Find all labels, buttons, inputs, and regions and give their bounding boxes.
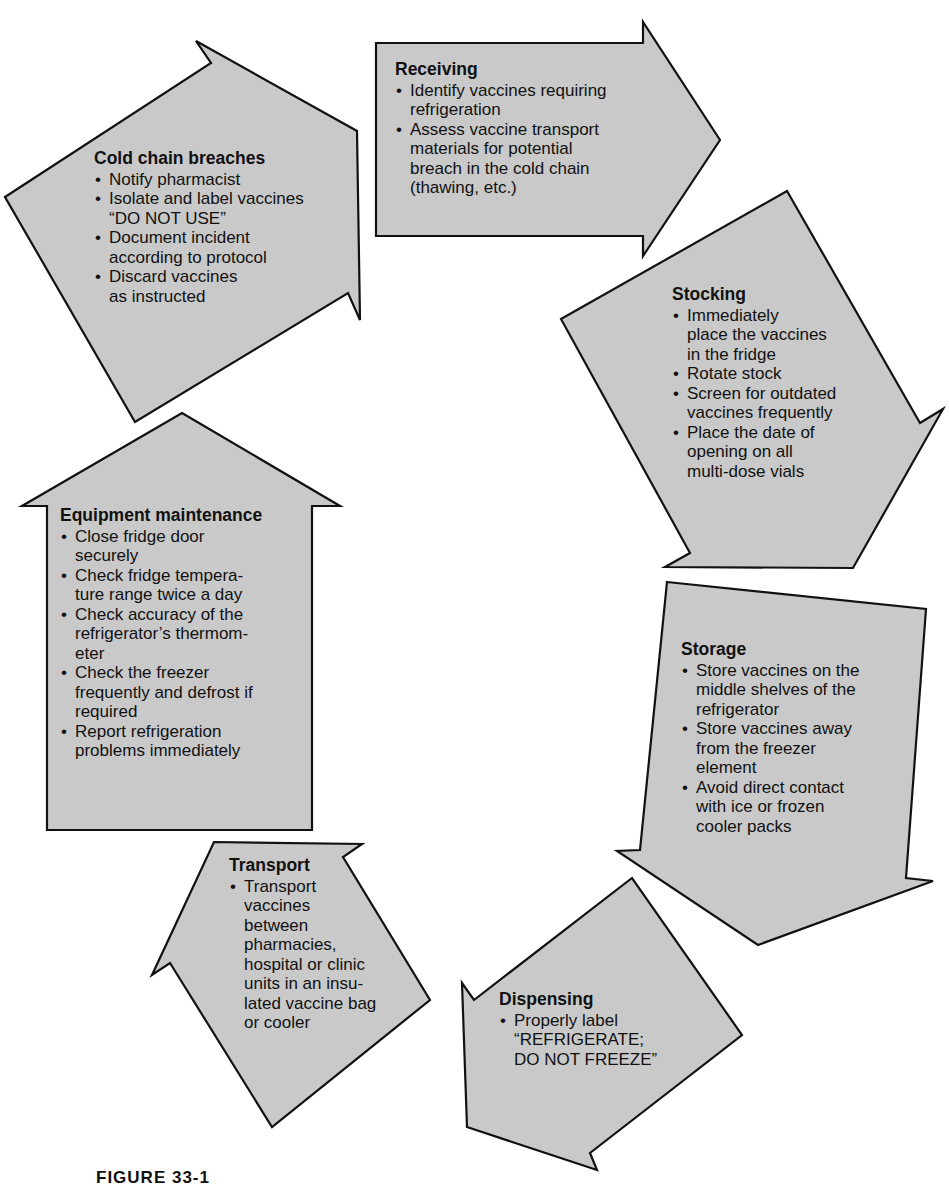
bullet-item: Document incident according to protocol [94,228,304,267]
bullet-item: Close fridge door securely [60,527,262,566]
transport-bullets: Transport vaccines between pharmacies, h… [229,877,376,1033]
bullet-item: Assess vaccine transport materials for p… [395,120,607,198]
storage-step: Storage Store vaccines on the middle she… [681,640,859,836]
transport-title: Transport [229,856,376,876]
receiving-step: Receiving Identify vaccines requiring re… [395,60,607,198]
cold-chain-breaches-step: Cold chain breaches Notify pharmacist Is… [94,149,304,306]
bullet-item: Rotate stock [672,364,836,384]
bullet-item: Check the freezer frequently and defrost… [60,663,262,722]
cold-chain-breaches-bullets: Notify pharmacist Isolate and label vacc… [94,170,304,307]
bullet-item: Properly label “REFRIGERATE; DO NOT FREE… [499,1011,657,1070]
dispensing-title: Dispensing [499,990,657,1010]
storage-bullets: Store vaccines on the middle shelves of … [681,661,859,837]
bullet-item: Identify vaccines requiring refrigeratio… [395,81,607,120]
bullet-item: Immediately place the vaccines in the fr… [672,306,836,365]
bullet-item: Store vaccines on the middle shelves of … [681,661,859,720]
storage-title: Storage [681,640,859,660]
equipment-maintenance-title: Equipment maintenance [60,506,262,526]
dispensing-bullets: Properly label “REFRIGERATE; DO NOT FREE… [499,1011,657,1070]
transport-step: Transport Transport vaccines between pha… [229,856,376,1033]
stocking-bullets: Immediately place the vaccines in the fr… [672,306,836,482]
cold-chain-breaches-title: Cold chain breaches [94,149,304,169]
dispensing-step: Dispensing Properly label “REFRIGERATE; … [499,990,657,1069]
stocking-step: Stocking Immediately place the vaccines … [672,285,836,481]
bullet-item: Avoid direct contact with ice or frozen … [681,778,859,837]
bullet-item: Screen for outdated vaccines frequently [672,384,836,423]
receiving-bullets: Identify vaccines requiring refrigeratio… [395,81,607,198]
bullet-item: Store vaccines away from the freezer ele… [681,719,859,778]
bullet-item: Isolate and label vaccines “DO NOT USE” [94,189,304,228]
bullet-item: Check fridge tempera- ture range twice a… [60,566,262,605]
bullet-item: Notify pharmacist [94,170,304,190]
stocking-title: Stocking [672,285,836,305]
equipment-maintenance-bullets: Close fridge door securely Check fridge … [60,527,262,761]
figure-caption: FIGURE 33-1 [96,1168,210,1187]
receiving-title: Receiving [395,60,607,80]
bullet-item: Place the date of opening on all multi-d… [672,423,836,482]
bullet-item: Discard vaccines as instructed [94,267,304,306]
bullet-item: Transport vaccines between pharmacies, h… [229,877,376,1033]
bullet-item: Report refrigeration problems immediatel… [60,722,262,761]
bullet-item: Check accuracy of the refrigerator’s the… [60,605,262,664]
equipment-maintenance-step: Equipment maintenance Close fridge door … [60,506,262,761]
